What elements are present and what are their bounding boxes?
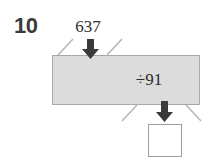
machine-operation-label: ÷91 (53, 56, 199, 104)
answer-input-box[interactable] (148, 124, 182, 157)
machine-input-label: 637 (65, 18, 111, 35)
function-machine-problem: 10 637 ÷91 (0, 0, 215, 163)
spark-line-icon-top-right (107, 39, 122, 55)
function-machine-body: ÷91 (52, 55, 200, 105)
spark-line-icon-top-left (58, 39, 73, 55)
question-number: 10 (14, 15, 37, 37)
spark-line-icon-bottom-right (186, 105, 201, 121)
spark-line-icon-bottom-left (122, 105, 137, 121)
